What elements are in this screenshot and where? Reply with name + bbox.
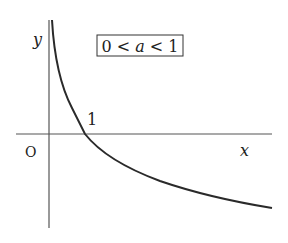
condition-text: 0 < a < 1 bbox=[101, 37, 178, 56]
x-axis-label: x bbox=[240, 141, 249, 160]
y-axis-label: y bbox=[32, 30, 43, 49]
intercept-label: 1 bbox=[87, 110, 97, 129]
log-graph: 0 < a < 1 y x O 1 bbox=[0, 0, 288, 243]
origin-label: O bbox=[25, 144, 36, 160]
